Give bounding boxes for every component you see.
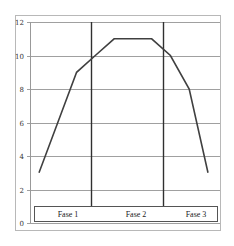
chart: 024681012 Fase 1 Fase 2 Fase 3 xyxy=(0,0,234,246)
y-tick-label: 2 xyxy=(20,187,24,195)
y-tick-label: 6 xyxy=(20,120,25,128)
phase-label-3: Fase 3 xyxy=(186,210,207,219)
y-tick-label: 8 xyxy=(20,86,24,94)
y-tick-label: 12 xyxy=(15,19,24,27)
phase-legend-box: Fase 1 Fase 2 Fase 3 xyxy=(35,207,218,222)
y-tick-label: 0 xyxy=(20,220,24,228)
phase-label-2: Fase 2 xyxy=(126,210,147,219)
phase-label-1: Fase 1 xyxy=(58,210,79,219)
y-tick-label: 4 xyxy=(20,153,25,161)
y-tick-label: 10 xyxy=(15,53,24,61)
